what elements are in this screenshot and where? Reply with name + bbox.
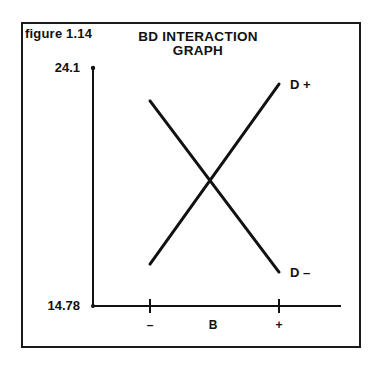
x-tick-label-minus: – <box>140 318 160 332</box>
series-label-d-minus: D – <box>290 265 310 280</box>
x-axis-label: B <box>203 318 223 332</box>
series-line-d-minus <box>150 101 279 272</box>
series-line-d-plus <box>150 84 279 264</box>
series-label-d-plus: D + <box>290 77 311 92</box>
y-tick-label-top: 24.1 <box>20 60 80 75</box>
x-tick-label-plus: + <box>269 318 289 332</box>
y-tick-label-bottom: 14.78 <box>20 298 80 313</box>
y-axis-top-dot <box>91 66 95 70</box>
origin-dot <box>91 304 95 308</box>
